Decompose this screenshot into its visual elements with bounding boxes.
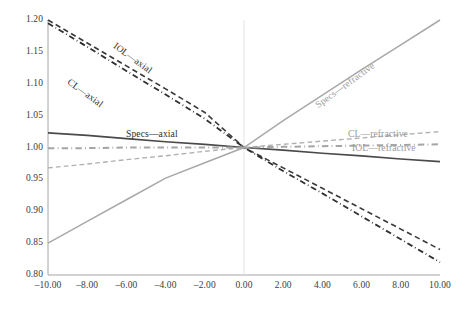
y-tick-label: 1.10: [4, 78, 43, 88]
y-tick-label: 0.95: [4, 173, 43, 183]
chart-container: 0.800.850.900.951.001.051.101.151.20 –10…: [0, 0, 457, 313]
chart-plot-area: [0, 0, 457, 313]
y-tick-label: 0.85: [4, 237, 43, 247]
series-label: CL—refractive: [348, 128, 408, 139]
x-tick-label: 10.00: [415, 280, 457, 290]
series-label: Specs—axial: [126, 128, 178, 139]
y-tick-label: 1.15: [4, 46, 43, 56]
y-tick-label: 1.05: [4, 110, 43, 120]
y-tick-label: 0.80: [4, 269, 43, 279]
series-label: IOL—refractive: [352, 142, 416, 153]
y-tick-label: 1.00: [4, 142, 43, 152]
y-tick-label: 0.90: [4, 205, 43, 215]
y-tick-label: 1.20: [4, 14, 43, 24]
